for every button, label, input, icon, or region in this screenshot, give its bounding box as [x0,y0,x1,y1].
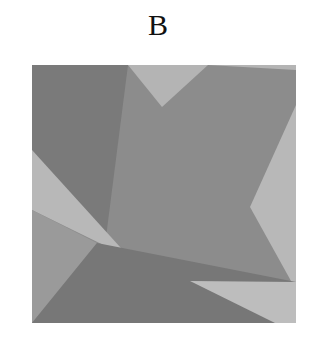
abstract-polygon-artwork [0,0,316,345]
